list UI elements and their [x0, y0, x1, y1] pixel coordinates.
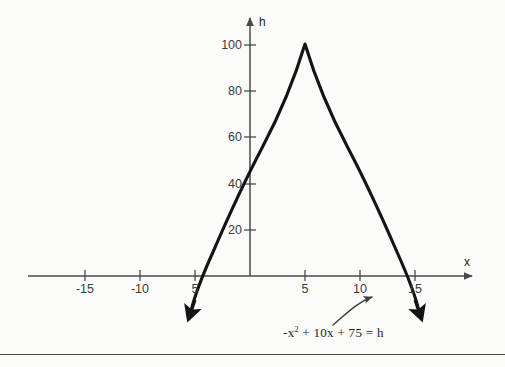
y-axis-label: h — [259, 15, 266, 29]
x-axis-label: x — [464, 255, 470, 269]
equation-lead: -x — [283, 325, 294, 340]
curve-pointer-arrow — [333, 297, 372, 325]
y-tick-label-60: 60 — [206, 130, 242, 144]
x-tick-label-10: 10 — [342, 282, 378, 296]
equation-annotation: -x2 + 10x + 75 = h — [283, 325, 384, 341]
y-axis — [244, 18, 256, 276]
y-tick-label-40: 40 — [206, 177, 242, 191]
x-tick-label-neg15: -15 — [67, 282, 103, 296]
parabola-figure: h x 100 80 60 40 20 -15 -10 5 5 10 15 -x… — [0, 0, 505, 367]
plot-canvas — [0, 0, 505, 367]
x-tick-label-neg10: -10 — [122, 282, 158, 296]
y-tick-label-20: 20 — [206, 223, 242, 237]
page-divider-rule — [0, 354, 505, 355]
y-tick-label-100: 100 — [206, 38, 242, 52]
equation-rest: + 10x + 75 = h — [299, 325, 384, 340]
x-tick-label-neg5: 5 — [182, 282, 208, 296]
x-tick-label-5: 5 — [292, 282, 318, 296]
x-tick-label-15: 15 — [397, 282, 433, 296]
y-tick-label-80: 80 — [206, 84, 242, 98]
